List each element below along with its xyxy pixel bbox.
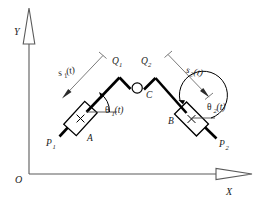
y-arrow-icon [23,8,35,44]
dimension-s1-line [64,56,103,97]
slider-a-label: A [86,133,93,143]
slider-b-label: B [168,116,174,126]
dimension-s2-tick [165,51,173,58]
angle-theta2-suffix: (t) [217,102,226,113]
joint-q1-letter: Q [112,56,119,66]
dimension-s2-suffix: (t) [193,67,204,80]
rod-end-p2-subscript: 2 [226,144,230,151]
joint-q2-label: Q 2 [141,56,152,68]
angle-theta1-symbol: θ [105,105,110,115]
angle-theta2-label: θ 2 (t) [207,102,225,114]
rod-end-p2-label: P 2 [218,139,230,151]
dimension-s1-letter: s [57,68,63,79]
revolute-joint-c-icon [132,83,142,93]
dimension-s1-label: s 1 (t) [57,65,76,80]
linkage-diagram-figure: Y X O Q 1 Q 2 C A B P 1 P 2 s [0,0,263,205]
coordinate-axes [23,8,252,180]
rod-end-p1-subscript: 1 [53,143,56,150]
rod-end-p1-letter: P [45,138,52,148]
link-b-q2 [156,78,187,113]
x-arrow-icon [216,168,252,179]
dimension-s1-suffix: (t) [65,65,76,78]
rod-end-p1-label: P 1 [45,138,56,150]
dimension-s2 [165,51,214,100]
link-c-q2 [144,78,156,90]
angle-theta1-suffix: (t) [115,105,124,116]
x-axis-label: X [225,186,233,197]
y-axis-label: Y [14,26,21,37]
origin-label: O [15,174,22,185]
joint-q1-label: Q 1 [112,56,122,68]
slider-assembly-a [60,78,120,137]
angle-theta1-label: θ 1 (t) [105,105,123,117]
joint-q1-subscript: 1 [119,61,122,68]
joint-q2-subscript: 2 [148,61,152,68]
diagram-canvas: Y X O Q 1 Q 2 C A B P 1 P 2 s [0,0,263,205]
joint-c-label: C [146,90,153,100]
link-q1-c [120,78,131,90]
angle-theta2-symbol: θ [207,102,212,112]
rod-end-p2-letter: P [218,139,225,149]
dimension-s1-tick [99,52,107,59]
joint-q2-letter: Q [141,56,148,66]
